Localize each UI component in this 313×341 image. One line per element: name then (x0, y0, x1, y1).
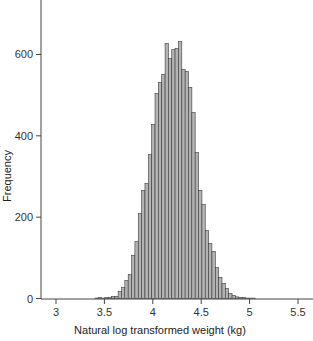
x-axis-title: Natural log transformed weight (kg) (74, 324, 246, 336)
histogram-bar (152, 124, 155, 298)
histogram-bar (98, 298, 101, 299)
histogram-bar (128, 275, 131, 299)
y-tick-label: 400 (15, 130, 33, 142)
histogram-bars (95, 41, 256, 298)
histogram-bar (155, 94, 158, 299)
histogram-bar (108, 297, 111, 298)
histogram-bar (219, 277, 222, 298)
histogram-bar (158, 83, 161, 299)
histogram-bar (178, 41, 181, 298)
histogram-bar (111, 296, 114, 298)
histogram-bar (225, 288, 228, 298)
histogram-bar (215, 268, 218, 299)
histogram-bar (205, 231, 208, 299)
histogram-bar (135, 242, 138, 299)
histogram-bar (138, 214, 141, 299)
histogram-bar (165, 44, 168, 299)
histogram-chart: 0200400600 33.544.555.5 Natural log tran… (0, 0, 313, 341)
y-tick-label: 200 (15, 211, 33, 223)
histogram-bar (148, 155, 151, 299)
histogram-bar (189, 87, 192, 298)
histogram-bar (105, 298, 108, 299)
histogram-bar (199, 190, 202, 298)
histogram-bar (235, 297, 238, 299)
histogram-bar (122, 288, 125, 299)
histogram-bar (232, 296, 235, 299)
y-tick-label: 0 (27, 293, 33, 305)
histogram-bar (162, 74, 165, 298)
histogram-bar (195, 152, 198, 298)
histogram-bar (175, 48, 178, 298)
x-tick-label: 5.5 (290, 306, 305, 318)
histogram-bar (132, 255, 135, 298)
x-tick-label: 5 (247, 306, 253, 318)
y-axis-title: Frequency (1, 150, 13, 202)
histogram-bar (168, 59, 171, 299)
histogram-bar (229, 294, 232, 299)
histogram-bar (212, 251, 215, 298)
x-axis-ticks: 33.544.555.5 (53, 299, 306, 318)
x-tick-label: 4 (150, 306, 156, 318)
histogram-bar (172, 50, 175, 299)
histogram-bar (185, 72, 188, 299)
histogram-bar (145, 183, 148, 298)
histogram-bar (222, 283, 225, 298)
histogram-bar (118, 292, 121, 299)
histogram-bar (239, 298, 242, 299)
histogram-bar (125, 281, 128, 299)
x-tick-label: 3 (53, 306, 59, 318)
histogram-bar (192, 113, 195, 299)
x-tick-label: 4.5 (194, 306, 209, 318)
y-tick-label: 600 (15, 48, 33, 60)
x-tick-label: 3.5 (97, 306, 112, 318)
y-axis-ticks: 0200400600 (15, 48, 41, 304)
histogram-bar (182, 70, 185, 299)
histogram-bar (142, 190, 145, 298)
histogram-bar (209, 244, 212, 299)
histogram-bar (115, 296, 118, 298)
histogram-bar (242, 298, 245, 299)
histogram-bar (202, 205, 205, 299)
